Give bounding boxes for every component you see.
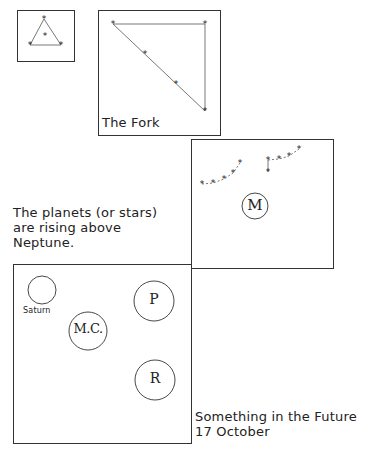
saturn-circle: [28, 276, 56, 304]
svg-text:*: *: [200, 179, 205, 189]
svg-text:*: *: [222, 174, 227, 184]
svg-text:*: *: [211, 178, 216, 188]
caption-line: are rising above: [13, 220, 157, 235]
star-icon: * * * * * * * * * *: [200, 144, 302, 189]
planet-p-label: P: [146, 291, 162, 307]
svg-text:*: *: [277, 154, 282, 164]
caption-line: Neptune.: [13, 235, 157, 250]
svg-text:*: *: [203, 19, 208, 29]
svg-text:*: *: [266, 167, 271, 177]
caption-date: 17 October: [195, 424, 357, 439]
svg-text:*: *: [174, 79, 179, 89]
svg-text:*: *: [203, 106, 208, 116]
caption-line: The planets (or stars): [13, 205, 157, 220]
svg-text:*: *: [287, 151, 292, 161]
svg-text:*: *: [238, 158, 243, 168]
saturn-label: Saturn: [23, 306, 51, 315]
planet-mc-label: M.C.: [71, 321, 105, 336]
svg-text:*: *: [43, 31, 48, 41]
svg-text:*: *: [143, 49, 148, 59]
middle-caption: The planets (or stars) are rising above …: [13, 205, 157, 250]
fork-caption: The Fork: [102, 115, 160, 130]
m-constellations: [202, 149, 299, 184]
fork-constellation: [113, 24, 205, 111]
svg-text:*: *: [231, 168, 236, 178]
bottom-caption: Something in the Future 17 October: [195, 409, 357, 439]
svg-text:*: *: [59, 40, 64, 50]
svg-text:*: *: [28, 40, 33, 50]
svg-text:*: *: [42, 14, 47, 24]
svg-text:*: *: [111, 19, 116, 29]
svg-text:*: *: [297, 144, 302, 154]
planet-r-label: R: [147, 370, 163, 386]
planet-m-label: M: [246, 196, 264, 214]
caption-line: Something in the Future: [195, 409, 357, 424]
svg-text:*: *: [266, 155, 271, 165]
